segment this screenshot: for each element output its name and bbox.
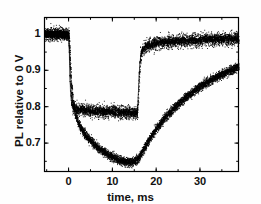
figure-container: 0.70.80.91 0102030 PL relative to 0 V ti… [0,0,261,204]
data-series [44,23,240,168]
x-tick-label: 0 [55,175,83,187]
y-tick-label: 0.8 [26,100,41,112]
x-tick-label: 10 [98,175,126,187]
x-tick-label: 30 [186,175,214,187]
y-tick-label: 0.9 [26,63,41,75]
y-tick-label: 0.7 [26,136,41,148]
x-axis-title: time, ms [0,191,261,203]
x-tick-label: 20 [142,175,170,187]
y-axis-title: PL relative to 0 V [13,54,25,146]
y-tick-label: 1 [35,27,41,39]
